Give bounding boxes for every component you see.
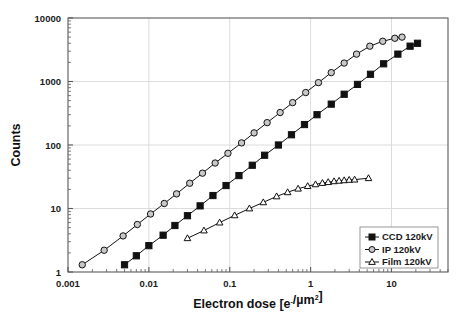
marker-circle xyxy=(225,150,231,156)
marker-square xyxy=(288,132,294,138)
marker-square xyxy=(184,213,190,219)
marker-square xyxy=(301,121,307,127)
marker-square xyxy=(249,162,255,168)
marker-circle xyxy=(369,247,375,253)
marker-circle xyxy=(212,160,218,166)
y-tick-label: 10000 xyxy=(35,13,61,24)
marker-circle xyxy=(199,170,205,176)
marker-square xyxy=(236,172,242,178)
marker-square xyxy=(210,192,216,198)
chart-container: 0.0010.010.1110110100100010000Electron d… xyxy=(0,0,460,319)
marker-circle xyxy=(161,200,167,206)
marker-square xyxy=(395,51,401,57)
marker-circle xyxy=(264,119,270,125)
marker-square xyxy=(262,152,268,158)
marker-circle xyxy=(289,99,295,105)
marker-square xyxy=(197,203,203,209)
marker-square xyxy=(223,182,229,188)
marker-square xyxy=(133,253,139,259)
x-tick-label: 0.001 xyxy=(56,278,80,289)
marker-circle xyxy=(328,69,334,75)
marker-circle xyxy=(101,247,107,253)
marker-circle xyxy=(277,109,283,115)
y-tick-label: 1000 xyxy=(40,76,61,87)
marker-square xyxy=(341,91,347,97)
legend: CCD 120kVIP 120kVFilm 120kV xyxy=(360,227,438,268)
marker-circle xyxy=(251,130,257,136)
y-axis-title: Counts xyxy=(9,123,23,166)
marker-circle xyxy=(303,89,309,95)
marker-square xyxy=(407,43,413,49)
marker-circle xyxy=(238,140,244,146)
marker-square xyxy=(414,40,420,46)
marker-square xyxy=(121,262,127,268)
marker-square xyxy=(160,232,166,238)
marker-circle xyxy=(120,233,126,239)
marker-circle xyxy=(187,180,193,186)
x-tick-label: 0.1 xyxy=(223,278,237,289)
marker-circle xyxy=(380,38,386,44)
marker-square xyxy=(328,101,334,107)
marker-square xyxy=(146,243,152,249)
marker-square xyxy=(369,234,375,240)
y-tick-label: 100 xyxy=(45,140,61,151)
marker-circle xyxy=(147,211,153,217)
marker-circle xyxy=(315,79,321,85)
marker-square xyxy=(381,61,387,67)
x-tick-label: 10 xyxy=(386,278,397,289)
marker-square xyxy=(354,81,360,87)
marker-circle xyxy=(134,221,140,227)
marker-square xyxy=(275,142,281,148)
legend-label: Film 120kV xyxy=(382,256,432,267)
marker-square xyxy=(314,112,320,118)
marker-circle xyxy=(392,35,398,41)
marker-circle xyxy=(79,262,85,268)
x-tick-label: 1 xyxy=(308,278,314,289)
x-tick-label: 0.01 xyxy=(140,278,159,289)
marker-circle xyxy=(367,43,373,49)
marker-circle xyxy=(353,51,359,57)
y-tick-label: 1 xyxy=(56,267,62,278)
marker-circle xyxy=(399,34,405,40)
y-tick-label: 10 xyxy=(50,203,61,214)
loglog-chart: 0.0010.010.1110110100100010000Electron d… xyxy=(0,0,460,319)
marker-square xyxy=(367,71,373,77)
marker-square xyxy=(172,222,178,228)
legend-label: CCD 120kV xyxy=(382,231,433,242)
legend-label: IP 120kV xyxy=(382,244,422,255)
marker-circle xyxy=(341,60,347,66)
marker-circle xyxy=(173,191,179,197)
